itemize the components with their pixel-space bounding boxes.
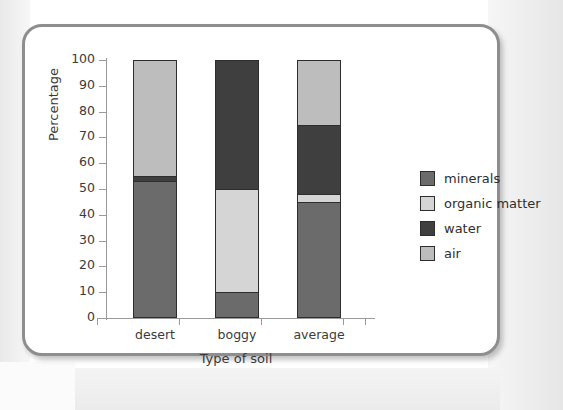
x-category-label-boggy: boggy [192,327,282,342]
legend-label-minerals: minerals [444,171,500,186]
page-background: 0102030405060708090100 desertboggyaverag… [0,0,563,410]
y-tick-60 [99,163,107,164]
legend-item-organic-matter[interactable]: organic matter [420,191,541,216]
legend-item-air[interactable]: air [420,241,541,266]
chart-plot: 0102030405060708090100 desertboggyaverag… [25,27,503,359]
y-tick-30 [99,241,107,242]
y-tick-label-40: 40 [53,208,95,221]
y-tick-20 [99,266,107,267]
x-tick-2 [261,318,262,325]
x-tick-4 [365,318,366,325]
legend-item-water[interactable]: water [420,216,541,241]
y-tick-40 [99,215,107,216]
bar-outline-boggy [215,60,259,318]
x-tick-3 [343,318,344,325]
x-category-label-average: average [274,327,364,342]
y-tick-100 [99,60,107,61]
y-tick-label-20: 20 [53,259,95,272]
page-edge-bottom [60,368,500,410]
y-tick-label-10: 10 [53,285,95,298]
chart-legend: mineralsorganic matterwaterair [420,166,541,266]
chart-card: 0102030405060708090100 desertboggyaverag… [22,24,500,356]
y-tick-0 [99,318,107,319]
plot-data-area [107,60,365,318]
y-tick-90 [99,86,107,87]
legend-swatch-air [420,246,435,261]
bar-outline-desert [133,60,177,318]
bar-boggy[interactable] [215,60,259,318]
x-tick-0 [97,318,98,325]
y-tick-label-0: 0 [53,311,95,324]
page-edge-notch [0,362,75,410]
x-axis-title: Type of soil [97,351,375,366]
y-axis-title: Percentage [46,25,61,185]
y-tick-50 [99,189,107,190]
legend-item-minerals[interactable]: minerals [420,166,541,191]
legend-swatch-minerals [420,171,435,186]
y-tick-10 [99,292,107,293]
x-tick-1 [179,318,180,325]
x-axis-line [97,318,375,319]
legend-swatch-water [420,221,435,236]
legend-label-water: water [444,221,481,236]
y-tick-70 [99,137,107,138]
legend-swatch-organic-matter [420,196,435,211]
bar-outline-average [297,60,341,318]
x-category-label-desert: desert [110,327,200,342]
bar-average[interactable] [297,60,341,318]
legend-label-air: air [444,246,461,261]
legend-label-organic-matter: organic matter [444,196,541,211]
bar-desert[interactable] [133,60,177,318]
y-tick-80 [99,112,107,113]
y-tick-label-30: 30 [53,234,95,247]
